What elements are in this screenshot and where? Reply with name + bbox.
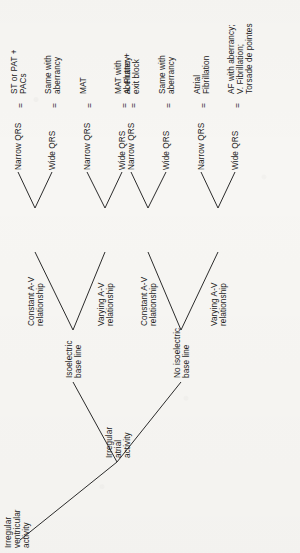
leaf-2-qrs: Wide QRS <box>48 131 57 170</box>
leaf-7-result: Atrial Fibrillation <box>193 56 211 94</box>
edge-constant1-to-leaf1 <box>18 172 35 208</box>
node-constant-av-1: Constant A-V relationship <box>27 277 45 326</box>
node-isoelectric-base-line: Isoelectric base line <box>65 340 83 378</box>
node-constant-av-2: Constant A-V relationship <box>140 277 158 326</box>
leaf-5-result: A. Flutter + exit block <box>123 53 141 94</box>
node-level2-line-2: atrial <box>114 427 123 458</box>
node-level2-line-1: Irregular <box>105 427 114 458</box>
node-varying-av-2: Varying A-V relationship <box>210 282 228 326</box>
leaf-7-result-line-2: Fibrillation <box>202 56 211 94</box>
node-isoelectric-line-1: Isoelectric <box>65 340 74 378</box>
node-varying-av-2-line-2: relationship <box>219 282 228 326</box>
leaf-2-result-line-1: Same with <box>44 55 53 94</box>
equals-1: = <box>16 103 25 108</box>
leaf-8-result-line-1: AF with aberrancy; <box>227 23 236 94</box>
node-varying-av-1-line-1: Varying A-V <box>97 282 106 326</box>
edge-varying1-to-leaf4 <box>105 172 122 208</box>
equals-2: = <box>50 103 59 108</box>
leaf-3-qrs: Narrow QRS <box>83 123 92 170</box>
node-constant-av-2-line-2: relationship <box>149 277 158 326</box>
leaf-6-qrs: Wide QRS <box>162 131 171 170</box>
leaf-6-result: Same with aberrancy <box>158 55 176 94</box>
equals-5: = <box>129 103 138 108</box>
leaf-8-result-line-3: Torsade de pointes <box>245 23 254 94</box>
equals-6: = <box>164 103 173 108</box>
node-isoelectric-line-2: base line <box>74 340 83 378</box>
edge-constant2-to-leaf6 <box>148 172 166 208</box>
leaf-1-qrs: Narrow QRS <box>14 123 23 170</box>
node-root-line-1: Irregular <box>4 509 13 548</box>
node-root: Irregular ventricular activity <box>4 509 31 548</box>
leaf-1-result: ST or PAT + PACs <box>10 49 28 94</box>
leaf-8-qrs: Wide QRS <box>231 131 240 170</box>
node-no-isoelectric-line-2: base line <box>182 328 191 378</box>
leaf-4-qrs: Wide QRS <box>118 131 127 170</box>
edge-varying2-to-leaf7 <box>201 172 218 208</box>
node-varying-av-1-line-2: relationship <box>106 282 115 326</box>
node-root-line-3: activity <box>22 509 31 548</box>
leaf-8-result-line-2: V. Fibrillation; <box>236 23 245 94</box>
node-constant-av-1-line-1: Constant A-V <box>27 277 36 326</box>
leaf-8-result: AF with aberrancy; V. Fibrillation; Tors… <box>227 23 254 94</box>
node-irregular-atrial-activity: Irregular atrial activity <box>105 427 132 458</box>
node-varying-av-2-line-1: Varying A-V <box>210 282 219 326</box>
leaf-5-result-line-2: exit block <box>132 53 141 94</box>
edge-varying2-to-leaf8 <box>218 172 235 208</box>
diagram-canvas: Irregular ventricular activity Irregular… <box>0 0 300 553</box>
node-root-line-2: ventricular <box>13 509 22 548</box>
leaf-5-qrs: Narrow QRS <box>127 123 136 170</box>
leaf-3-result-line-1: MAT <box>79 77 88 94</box>
edge-constant1-to-leaf2 <box>35 172 52 208</box>
leaf-5-result-line-1: A. Flutter + <box>123 53 132 94</box>
equals-7: = <box>199 103 208 108</box>
leaf-6-result-line-1: Same with <box>158 55 167 94</box>
node-level2-line-3: activity <box>123 427 132 458</box>
edge-constant2-to-leaf5 <box>131 172 148 208</box>
leaf-1-result-line-2: PACs <box>19 49 28 94</box>
leaf-6-result-line-2: aberrancy <box>167 55 176 94</box>
leaf-7-qrs: Narrow QRS <box>197 123 206 170</box>
equals-8: = <box>233 103 242 108</box>
leaf-3-result: MAT <box>79 77 88 94</box>
leaf-2-result: Same with aberrancy <box>44 55 62 94</box>
leaf-1-result-line-1: ST or PAT + <box>10 49 19 94</box>
node-no-isoelectric-line-1: No isoelectric <box>173 328 182 378</box>
edge-varying1-to-leaf3 <box>87 172 105 208</box>
node-varying-av-1: Varying A-V relationship <box>97 282 115 326</box>
leaf-7-result-line-1: Atrial <box>193 56 202 94</box>
equals-3: = <box>85 103 94 108</box>
leaf-4-result-line-1: MAT with <box>114 57 123 94</box>
node-no-isoelectric-base-line: No isoelectric base line <box>173 328 191 378</box>
node-constant-av-1-line-2: relationship <box>36 277 45 326</box>
leaf-2-result-line-2: aberrancy <box>53 55 62 94</box>
edge-root-to-irregular-atrial <box>20 462 117 540</box>
node-constant-av-2-line-1: Constant A-V <box>140 277 149 326</box>
